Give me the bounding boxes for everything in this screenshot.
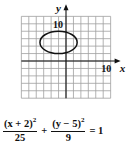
x-axis-label: x — [119, 62, 126, 74]
term1-exponent: 2 — [33, 116, 37, 124]
y-axis-arrow-icon — [64, 4, 69, 10]
term1-denominator: 25 — [15, 132, 26, 144]
term1-numerator: (x + 2) — [4, 118, 33, 129]
equals-one: = 1 — [89, 125, 103, 136]
term2-exponent: 2 — [81, 116, 85, 124]
plus-sign: + — [41, 125, 47, 136]
term2-numerator: (y − 5) — [52, 118, 81, 129]
x-tick-label: 10 — [101, 63, 111, 74]
term1-fraction: (x + 2)2 25 — [3, 117, 37, 143]
coordinate-graph: x y 10 10 — [0, 0, 133, 112]
term2-fraction: (y − 5)2 9 — [51, 117, 85, 143]
y-axis-label: y — [54, 2, 61, 14]
term2-denominator: 9 — [66, 132, 71, 144]
ellipse-equation: (x + 2)2 25 + (y − 5)2 9 = 1 — [3, 117, 107, 143]
y-tick-label: 10 — [53, 19, 63, 30]
